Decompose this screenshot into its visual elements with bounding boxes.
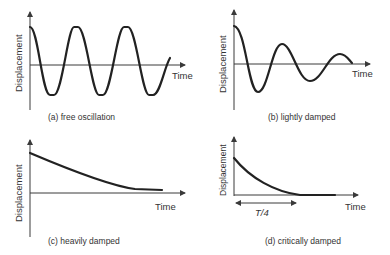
ylabel-d: Displacement (218, 144, 228, 196)
damping-diagram: Time Displacement (a) free oscillation T… (0, 0, 390, 255)
caption-d: (d) critically damped (265, 236, 341, 246)
curve-d (234, 158, 335, 195)
t-over-4-label: T/4 (255, 207, 269, 218)
curve-a (30, 27, 170, 95)
panel-c-heavily-damped: Time Displacement (c) heavily damped (13, 140, 185, 246)
xlabel-b: Time (352, 68, 373, 79)
panel-b-lightly-damped: Time Displacement (b) lightly damped (217, 10, 373, 122)
caption-c: (c) heavily damped (48, 236, 120, 246)
panel-d-critically-damped: T/4 Time Displacement (d) critically dam… (218, 137, 366, 246)
panel-a-free-oscillation: Time Displacement (a) free oscillation (13, 12, 193, 122)
xlabel-c: Time (155, 201, 176, 212)
ylabel-b: Displacement (217, 35, 228, 93)
xlabel-d: Time (345, 201, 366, 212)
caption-a: (a) free oscillation (48, 112, 115, 122)
ylabel-a: Displacement (13, 34, 24, 92)
caption-b: (b) lightly damped (268, 112, 336, 122)
ylabel-c: Displacement (13, 164, 24, 222)
curve-b (234, 26, 352, 92)
xlabel-a: Time (172, 70, 193, 81)
curve-c (30, 153, 162, 190)
